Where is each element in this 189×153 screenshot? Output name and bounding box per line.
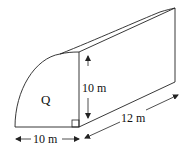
right-angle-marker bbox=[72, 120, 79, 127]
top-corner-edge bbox=[79, 8, 175, 52]
base-dimension: 10 m bbox=[16, 132, 79, 146]
face-label-q: Q bbox=[41, 92, 51, 107]
base-label: 10 m bbox=[33, 132, 58, 146]
front-face bbox=[15, 52, 79, 127]
top-curved-edge bbox=[60, 8, 175, 54]
height-label: 10 m bbox=[82, 81, 107, 95]
quarter-arc bbox=[15, 52, 79, 127]
height-dimension: 10 m bbox=[82, 56, 107, 118]
length-label: 12 m bbox=[121, 111, 146, 125]
length-dimension: 12 m bbox=[85, 95, 178, 138]
prism-diagram: 10 m 10 m 12 m Q bbox=[0, 0, 189, 153]
depth-edges bbox=[60, 8, 175, 127]
